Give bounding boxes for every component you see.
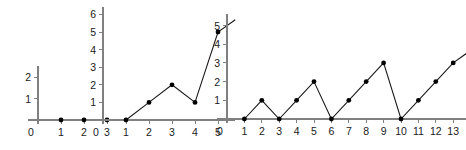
data-point-marker bbox=[381, 61, 386, 66]
data-point-marker bbox=[294, 98, 299, 103]
data-point-marker bbox=[312, 79, 317, 84]
x-tick-label: 0 bbox=[93, 126, 99, 138]
x-tick-label: 12 bbox=[430, 125, 442, 137]
data-point-marker bbox=[451, 61, 456, 66]
y-tick-label: 4 bbox=[214, 38, 220, 50]
y-tick-label: 4 bbox=[90, 44, 96, 56]
x-tick-label: 7 bbox=[346, 125, 352, 137]
y-tick-label: 5 bbox=[90, 26, 96, 38]
y-tick-label: 3 bbox=[90, 61, 96, 73]
chart-panel-3: 01234567891011121312345 bbox=[214, 14, 466, 137]
data-point-marker bbox=[59, 118, 64, 123]
x-tick-label: 1 bbox=[123, 126, 129, 138]
y-tick-label: 1 bbox=[25, 93, 31, 105]
x-tick-label: 6 bbox=[328, 125, 334, 137]
figure-container: 0123120123451234560123456789101112131234… bbox=[0, 0, 466, 150]
data-point-marker bbox=[259, 98, 264, 103]
y-tick-label: 1 bbox=[214, 94, 220, 106]
data-point-marker bbox=[329, 117, 334, 122]
x-tick-label: 4 bbox=[192, 126, 198, 138]
x-tick-label: 2 bbox=[259, 125, 265, 137]
x-tick-label: 3 bbox=[169, 126, 175, 138]
data-point-marker bbox=[346, 98, 351, 103]
x-tick-label: 11 bbox=[413, 125, 424, 137]
data-point-marker bbox=[193, 100, 198, 105]
x-tick-label: 1 bbox=[58, 126, 64, 138]
data-series-line bbox=[244, 54, 466, 119]
y-tick-label: 6 bbox=[90, 8, 96, 20]
multi-panel-plot: 0123120123451234560123456789101112131234… bbox=[0, 0, 466, 150]
data-point-marker bbox=[277, 117, 282, 122]
data-point-marker bbox=[399, 117, 404, 122]
x-tick-label: 0 bbox=[217, 125, 223, 137]
x-tick-label: 1 bbox=[241, 125, 247, 137]
y-tick-label: 3 bbox=[214, 57, 220, 69]
x-tick-label: 0 bbox=[28, 126, 34, 138]
y-tick-label: 2 bbox=[214, 76, 220, 88]
x-tick-label: 4 bbox=[294, 125, 300, 137]
data-point-marker bbox=[364, 79, 369, 84]
x-tick-label: 5 bbox=[311, 125, 317, 137]
data-point-marker bbox=[82, 118, 87, 123]
x-tick-label: 8 bbox=[363, 125, 369, 137]
chart-panel-1: 012312 bbox=[25, 66, 121, 138]
data-point-marker bbox=[124, 118, 129, 123]
x-tick-label: 3 bbox=[276, 125, 282, 137]
x-tick-label: 2 bbox=[146, 126, 152, 138]
y-tick-label: 1 bbox=[90, 96, 96, 108]
x-tick-label: 10 bbox=[395, 125, 407, 137]
x-tick-label: 13 bbox=[447, 125, 459, 137]
x-tick-label: 3 bbox=[104, 126, 110, 138]
y-tick-label: 5 bbox=[214, 20, 220, 32]
data-point-marker bbox=[147, 100, 152, 105]
x-tick-label: 9 bbox=[381, 125, 387, 137]
data-point-marker bbox=[416, 98, 421, 103]
data-point-marker bbox=[170, 82, 175, 87]
y-tick-label: 2 bbox=[90, 79, 96, 91]
x-tick-label: 2 bbox=[81, 126, 87, 138]
y-tick-label: 2 bbox=[25, 71, 31, 83]
data-point-marker bbox=[242, 117, 247, 122]
data-point-marker bbox=[433, 79, 438, 84]
